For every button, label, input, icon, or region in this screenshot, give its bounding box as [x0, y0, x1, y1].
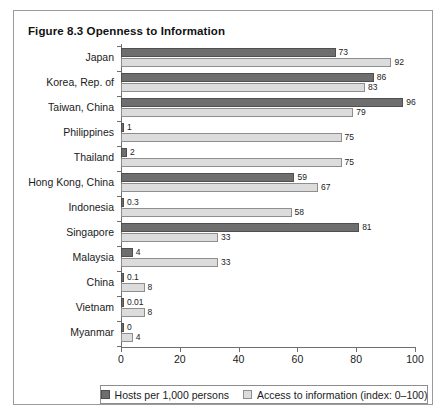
x-axis-tick [356, 348, 357, 352]
bar-value-label: 8 [148, 283, 153, 292]
x-axis-tick [180, 348, 181, 352]
bar-value-label: 33 [221, 258, 230, 267]
bar-dark [121, 73, 374, 82]
category-label: Philippines [0, 126, 121, 138]
bar-dark [121, 123, 124, 132]
bar-group: Hong Kong, China5967 [121, 171, 415, 196]
x-axis-label: 40 [233, 353, 245, 365]
category-label: China [0, 276, 121, 288]
bar-dark [121, 273, 124, 282]
bar-light [121, 333, 133, 342]
bars-area: Japan7392Korea, Rep. of8683Taiwan, China… [121, 46, 415, 346]
bar-value-label: 0 [127, 323, 132, 332]
bar-group: Vietnam0.018 [121, 296, 415, 321]
x-axis-tick [239, 348, 240, 352]
x-axis-tick [415, 348, 416, 352]
bar-dark [121, 173, 294, 182]
x-axis-label: 20 [174, 353, 186, 365]
y-axis-tick [117, 171, 121, 172]
bar-value-label: 0.3 [127, 198, 139, 207]
bar-light [121, 108, 353, 117]
bar-light [121, 83, 365, 92]
category-label: Indonesia [0, 201, 121, 213]
category-label: Malaysia [0, 251, 121, 263]
chart-legend: Hosts per 1,000 personsAccess to informa… [100, 385, 428, 404]
legend-item: Hosts per 1,000 persons [101, 389, 229, 401]
chart-plot-area: Japan7392Korea, Rep. of8683Taiwan, China… [14, 44, 434, 364]
legend-label: Access to information (index: 0–100) [257, 389, 427, 401]
bar-group: Indonesia0.358 [121, 196, 415, 221]
bar-value-label: 4 [136, 248, 141, 257]
y-axis-tick [117, 221, 121, 222]
bar-light [121, 258, 218, 267]
bar-dark [121, 98, 403, 107]
bar-dark [121, 48, 336, 57]
y-axis-tick [117, 296, 121, 297]
page-title: Figure 8.3 Openness to Information [28, 25, 225, 37]
y-axis-tick [117, 246, 121, 247]
figure-frame: Figure 8.3 Openness to Information Japan… [13, 10, 433, 405]
light-gray-swatch [243, 390, 252, 399]
bar-dark [121, 148, 127, 157]
bar-group: China0.18 [121, 271, 415, 296]
category-label: Myanmar [0, 326, 121, 338]
bar-dark [121, 223, 359, 232]
bar-light [121, 133, 342, 142]
source-note [14, 409, 434, 419]
x-axis-label: 100 [406, 353, 424, 365]
bar-group: Singapore8133 [121, 221, 415, 246]
bar-value-label: 73 [339, 48, 348, 57]
bar-value-label: 33 [221, 233, 230, 242]
bar-group: Thailand275 [121, 146, 415, 171]
bar-light [121, 283, 145, 292]
bar-value-label: 67 [321, 183, 330, 192]
bar-value-label: 75 [345, 158, 354, 167]
bar-dark [121, 298, 124, 307]
bar-group: Malaysia433 [121, 246, 415, 271]
bar-group: Korea, Rep. of8683 [121, 71, 415, 96]
bar-value-label: 1 [127, 123, 132, 132]
bar-light [121, 233, 218, 242]
bar-group: Japan7392 [121, 46, 415, 71]
y-axis-tick [117, 96, 121, 97]
bar-value-label: 86 [377, 73, 386, 82]
x-axis-label: 80 [350, 353, 362, 365]
x-axis-label: 0 [118, 353, 124, 365]
y-axis-tick [117, 271, 121, 272]
bar-light [121, 183, 318, 192]
bar-light [121, 208, 292, 217]
bar-value-label: 4 [136, 333, 141, 342]
bar-value-label: 59 [297, 173, 306, 182]
bar-value-label: 58 [295, 208, 304, 217]
category-label: Taiwan, China [0, 101, 121, 113]
bar-value-label: 0.01 [127, 298, 144, 307]
x-axis: 020406080100 [121, 348, 416, 370]
x-axis-tick [121, 348, 122, 352]
bar-dark [121, 198, 124, 207]
bar-value-label: 0.1 [127, 273, 139, 282]
bar-value-label: 92 [394, 58, 403, 67]
bar-light [121, 158, 342, 167]
bar-group: Myanmar04 [121, 321, 415, 346]
bar-group: Taiwan, China9679 [121, 96, 415, 121]
bar-value-label: 96 [406, 98, 415, 107]
category-label: Thailand [0, 151, 121, 163]
category-label: Japan [0, 51, 121, 63]
y-axis-tick [117, 71, 121, 72]
bar-light [121, 308, 145, 317]
legend-label: Hosts per 1,000 persons [115, 389, 229, 401]
dark-gray-swatch [101, 390, 110, 399]
y-axis-tick [117, 321, 121, 322]
bar-value-label: 81 [362, 223, 371, 232]
bar-value-label: 2 [130, 148, 135, 157]
bar-value-label: 8 [148, 308, 153, 317]
x-axis-label: 60 [292, 353, 304, 365]
y-axis-tick [117, 346, 121, 347]
category-label: Singapore [0, 226, 121, 238]
bar-value-label: 75 [345, 133, 354, 142]
bar-light [121, 58, 391, 67]
category-label: Hong Kong, China [0, 176, 121, 188]
category-label: Vietnam [0, 301, 121, 313]
y-axis-tick [117, 196, 121, 197]
bar-dark [121, 248, 133, 257]
